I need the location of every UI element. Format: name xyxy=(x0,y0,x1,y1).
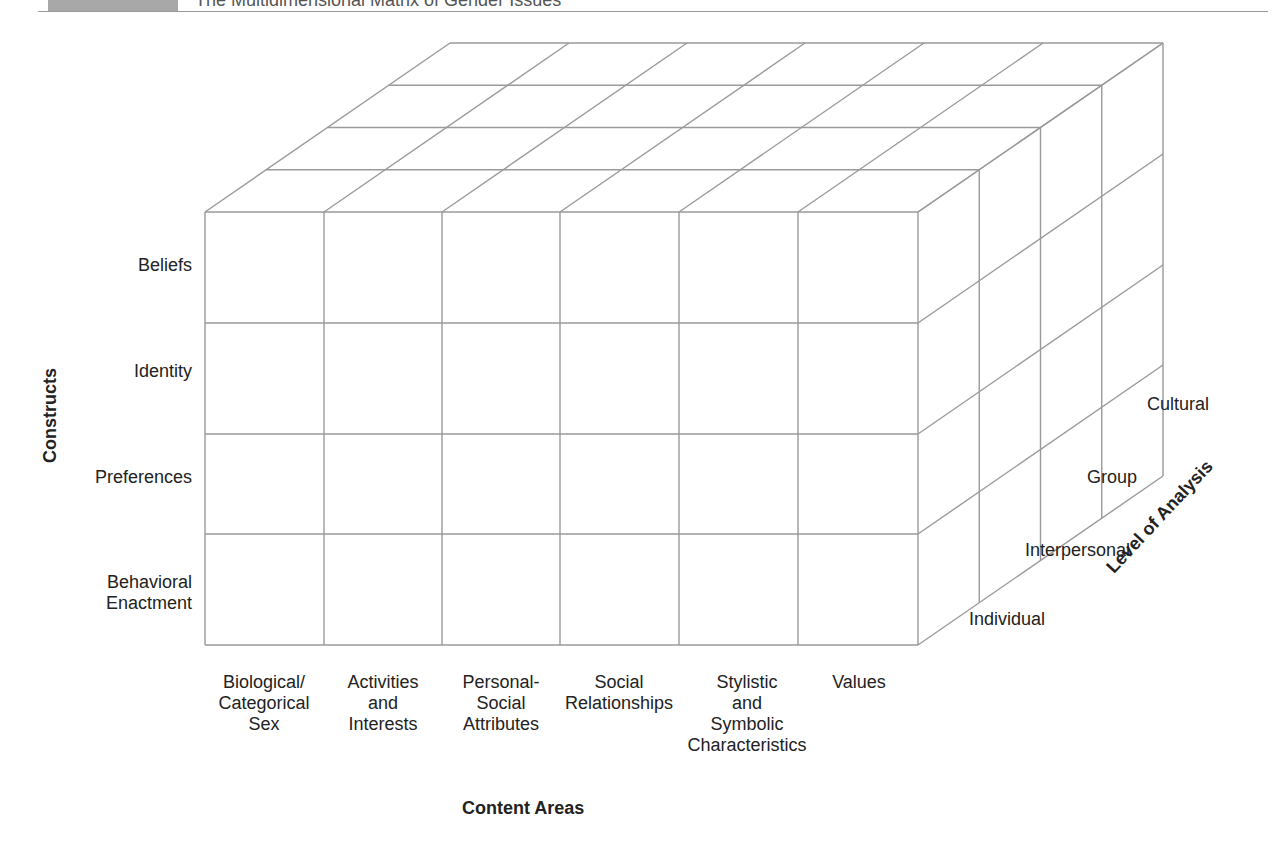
level-label-cultural: Cultural xyxy=(1147,394,1209,415)
row-label-beliefs: Beliefs xyxy=(12,255,192,276)
matrix-cube xyxy=(0,0,1275,857)
level-label-group: Group xyxy=(1087,467,1137,488)
axis-title-content-areas: Content Areas xyxy=(462,798,584,819)
axis-title-constructs: Constructs xyxy=(40,361,61,471)
level-label-individual: Individual xyxy=(969,609,1045,630)
row-label-behavioral-enactment: Behavioral Enactment xyxy=(12,572,192,614)
column-label-social-relationships: Social Relationships xyxy=(549,672,689,714)
column-label-values: Values xyxy=(789,672,929,693)
